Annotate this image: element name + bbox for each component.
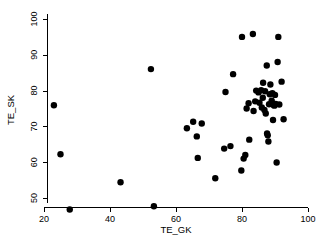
data-point xyxy=(260,95,266,101)
data-point xyxy=(148,66,154,72)
data-point xyxy=(51,102,57,108)
x-tick-label-group: 20406080100 xyxy=(39,214,316,224)
data-point xyxy=(265,132,271,138)
y-tick-label: 80 xyxy=(29,86,39,96)
data-point xyxy=(270,117,276,123)
data-point xyxy=(190,119,196,125)
data-point xyxy=(67,206,73,212)
x-tick-label: 20 xyxy=(39,214,49,224)
data-point xyxy=(195,155,201,161)
data-point xyxy=(194,133,200,139)
data-point xyxy=(239,34,245,40)
data-point xyxy=(199,120,205,126)
data-point xyxy=(151,203,157,209)
data-point xyxy=(184,125,190,131)
y-tick-label: 50 xyxy=(29,193,39,203)
data-point xyxy=(274,59,280,65)
x-tick-label: 100 xyxy=(300,214,315,224)
data-point xyxy=(230,71,236,77)
data-point xyxy=(250,108,256,114)
data-point xyxy=(278,78,284,84)
data-point xyxy=(267,81,273,87)
x-tick-label: 40 xyxy=(105,214,115,224)
data-point xyxy=(221,145,227,151)
scatter-plot-figure: 5060708090100 20406080100 TE_GK TE_SK xyxy=(0,0,331,241)
x-axis-title: TE_GK xyxy=(160,224,192,235)
x-tick-label: 60 xyxy=(171,214,181,224)
y-tick-label-group: 5060708090100 xyxy=(29,11,39,203)
data-point xyxy=(260,80,266,86)
x-tick-label: 80 xyxy=(237,214,247,224)
data-point xyxy=(245,100,251,106)
y-tick-label: 60 xyxy=(29,157,39,167)
plot-canvas: 5060708090100 20406080100 TE_GK TE_SK xyxy=(0,0,331,241)
data-point xyxy=(265,138,271,144)
y-tick-label: 100 xyxy=(29,11,39,26)
data-point xyxy=(227,143,233,149)
data-point xyxy=(275,34,281,40)
data-point xyxy=(57,151,63,157)
data-point xyxy=(264,62,270,68)
y-tick-label: 70 xyxy=(29,121,39,131)
data-point xyxy=(273,159,279,165)
data-point-group xyxy=(51,31,287,213)
data-point xyxy=(250,31,256,37)
data-point xyxy=(222,89,228,95)
data-point xyxy=(212,175,218,181)
data-point xyxy=(246,136,252,142)
y-tick-label: 90 xyxy=(29,50,39,60)
data-point xyxy=(276,101,282,107)
data-point xyxy=(280,116,286,122)
data-point xyxy=(272,92,278,98)
tick-mark-group xyxy=(43,20,309,213)
data-point xyxy=(238,167,244,173)
data-point xyxy=(117,179,123,185)
y-axis-title: TE_SK xyxy=(5,94,16,125)
data-point xyxy=(261,107,267,113)
data-point xyxy=(242,152,248,158)
